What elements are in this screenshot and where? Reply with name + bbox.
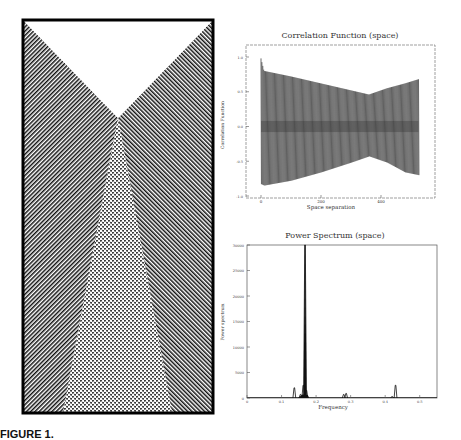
power-ytick-label: 25000 — [233, 269, 244, 273]
power-ytick-label: 5000 — [235, 371, 244, 375]
power-ytick-label: 15000 — [233, 320, 244, 324]
power-ytick-label: 10000 — [233, 346, 244, 350]
power-xtick-label: 0.5 — [417, 400, 423, 404]
power-title: Power Spectrum (space) — [285, 231, 384, 240]
power-xtick-label: 0 — [246, 400, 248, 404]
power-peak — [394, 385, 397, 398]
power-ytick-label: 20000 — [233, 295, 244, 299]
power-ylabel: Power spectrum — [220, 303, 225, 341]
power-peak — [293, 388, 296, 398]
power-xtick-label: 0.4 — [382, 400, 388, 404]
power-xtick-label: 0.3 — [348, 400, 354, 404]
power-xlabel: Frequency — [318, 404, 349, 411]
power-frame — [247, 245, 437, 398]
power-xtick-label: 0.1 — [279, 400, 285, 404]
power-ytick-label: 0 — [242, 397, 244, 401]
power-peak — [304, 245, 307, 398]
figure-caption: FIGURE 1. — [0, 428, 54, 440]
power-ytick-label: 30000 — [233, 244, 244, 248]
